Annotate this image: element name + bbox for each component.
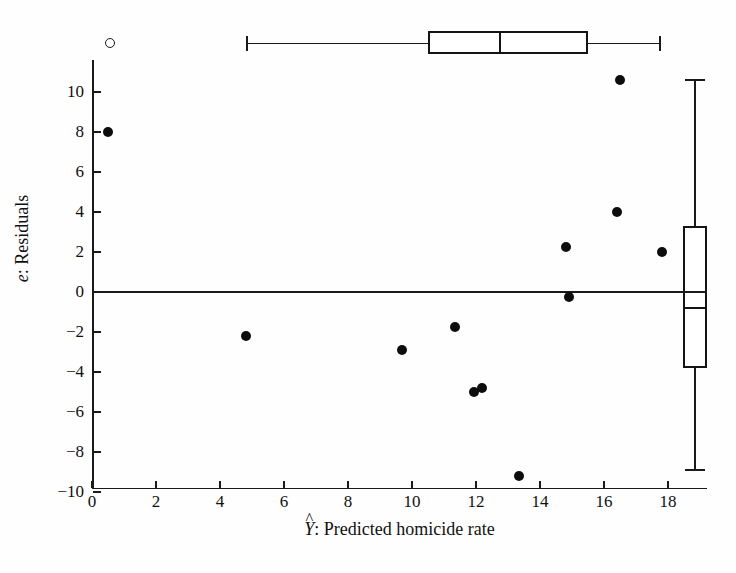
y-tick-label: 8 xyxy=(38,122,84,142)
circumflex-accent-icon: ^ xyxy=(304,509,314,529)
x-tick-label: 14 xyxy=(520,492,560,512)
scatter-point xyxy=(450,322,460,332)
y-tick-mark xyxy=(93,451,101,452)
vertical-boxplot-upper-whisker-cap xyxy=(685,79,705,81)
y-tick-label: −8 xyxy=(38,442,84,462)
x-tick-label: 2 xyxy=(136,492,176,512)
x-axis-line xyxy=(92,488,707,490)
outlier-marker-open-circle xyxy=(105,38,115,48)
vertical-boxplot-box xyxy=(683,226,707,368)
y-tick-label: −10 xyxy=(38,482,84,502)
x-tick-mark xyxy=(155,481,156,488)
x-tick-mark xyxy=(539,481,540,488)
x-tick-label: 6 xyxy=(264,492,304,512)
scatter-point xyxy=(241,331,251,341)
horizontal-boxplot-box xyxy=(428,31,588,54)
zero-reference-line xyxy=(92,291,707,293)
x-tick-mark xyxy=(347,481,348,488)
horizontal-boxplot-lower-whisker-cap xyxy=(246,36,248,51)
y-tick-label: 4 xyxy=(38,202,84,222)
y-axis-title-symbol: e xyxy=(12,274,32,282)
vertical-boxplot xyxy=(660,0,736,520)
y-axis-title-text: : Residuals xyxy=(12,195,32,275)
y-tick-mark xyxy=(93,491,101,492)
scatter-point xyxy=(514,471,524,481)
y-tick-mark xyxy=(93,131,101,132)
x-tick-label: 12 xyxy=(456,492,496,512)
scatter-point xyxy=(612,207,622,217)
y-tick-label: −4 xyxy=(38,362,84,382)
y-tick-label: −6 xyxy=(38,402,84,422)
scatter-point xyxy=(477,383,487,393)
x-tick-mark xyxy=(603,481,604,488)
x-tick-mark xyxy=(475,481,476,488)
scatter-point xyxy=(103,127,113,137)
x-axis-title: ^Y: Predicted homicide rate xyxy=(92,519,707,540)
scatter-point xyxy=(564,292,574,302)
x-tick-label: 10 xyxy=(392,492,432,512)
x-axis-title-text: : Predicted homicide rate xyxy=(314,519,494,539)
y-tick-mark xyxy=(93,91,101,92)
vertical-boxplot-median-line xyxy=(683,307,707,309)
x-tick-mark xyxy=(411,481,412,488)
y-tick-label: 10 xyxy=(38,82,84,102)
horizontal-boxplot-median-line xyxy=(499,31,501,54)
scatter-point xyxy=(561,242,571,252)
y-hat-symbol: ^Y xyxy=(304,519,314,540)
y-tick-label: 6 xyxy=(38,162,84,182)
scatter-point xyxy=(397,345,407,355)
y-tick-mark xyxy=(93,331,101,332)
x-tick-label: 18 xyxy=(648,492,688,512)
residual-plot-figure: 024681012141618 −10−8−6−4−20246810 ^Y: P… xyxy=(0,0,736,573)
y-tick-label: 2 xyxy=(38,242,84,262)
x-tick-label: 4 xyxy=(200,492,240,512)
scatter-point xyxy=(657,247,667,257)
vertical-boxplot-lower-whisker-cap xyxy=(685,469,705,471)
y-axis-title: e: Residuals xyxy=(12,129,33,349)
y-tick-mark xyxy=(93,171,101,172)
horizontal-boxplot xyxy=(0,0,736,70)
x-tick-label: 8 xyxy=(328,492,368,512)
x-tick-mark xyxy=(219,481,220,488)
y-axis-line xyxy=(92,60,94,488)
y-tick-mark xyxy=(93,211,101,212)
x-tick-mark xyxy=(283,481,284,488)
scatter-point xyxy=(615,75,625,85)
x-tick-mark xyxy=(91,481,92,488)
y-tick-mark xyxy=(93,411,101,412)
x-tick-label: 16 xyxy=(584,492,624,512)
y-tick-mark xyxy=(93,371,101,372)
y-tick-label: −2 xyxy=(38,322,84,342)
x-tick-mark xyxy=(667,481,668,488)
y-tick-mark xyxy=(93,251,101,252)
y-tick-label: 0 xyxy=(38,282,84,302)
